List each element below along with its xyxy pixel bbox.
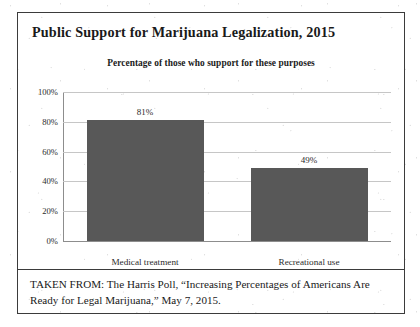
y-axis-tick-label: 100%	[16, 87, 58, 97]
y-axis-tick-label: 60%	[16, 147, 58, 157]
y-axis-tick-label: 40%	[16, 176, 58, 186]
y-axis-tick-label: 80%	[16, 117, 58, 127]
plot-area: 81%49%	[63, 92, 391, 241]
y-axis-tick-label: 0%	[16, 236, 58, 246]
y-axis-tick-label: 20%	[16, 206, 58, 216]
bar-value-label: 49%	[301, 155, 318, 165]
x-axis-category-label: Recreational use	[279, 257, 340, 267]
figure-frame: Public Support for Marijuana Legalizatio…	[17, 12, 405, 314]
source-caption: TAKEN FROM: The Harris Poll, “Increasing…	[30, 277, 394, 308]
gridline	[63, 92, 391, 93]
bar	[251, 168, 368, 241]
x-axis-category-label: Medical treatment	[111, 257, 178, 267]
bar	[87, 120, 204, 241]
caption-divider	[18, 269, 404, 270]
bar-value-label: 81%	[137, 107, 154, 117]
y-axis-tick-labels: 0%20%40%60%80%100%	[18, 92, 58, 242]
gridline	[63, 241, 391, 242]
